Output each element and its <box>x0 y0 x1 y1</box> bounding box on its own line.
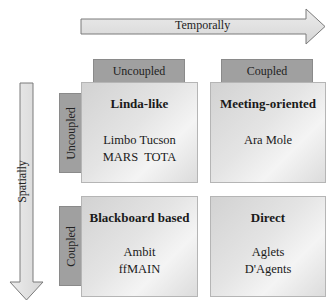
column-header-uncoupled: Uncoupled <box>93 59 185 84</box>
temporally-label: Temporally <box>175 18 230 33</box>
cell-item: Limbo Tucson <box>82 132 197 149</box>
row-header-uncoupled: Uncoupled <box>59 93 83 173</box>
row-header-label: Coupled <box>64 226 79 267</box>
cell-linda-like: Linda-like Limbo Tucson MARS TOTA <box>81 82 198 183</box>
spatially-arrow: Spatially <box>9 82 45 302</box>
spatially-label: Spatially <box>15 160 30 203</box>
column-header-label: Uncoupled <box>113 64 166 79</box>
cell-blackboard-based: Blackboard based Ambit ffMAIN <box>81 196 198 297</box>
row-header-label: Uncoupled <box>64 107 79 160</box>
cell-item: ffMAIN <box>82 261 197 278</box>
cell-title: Linda-like <box>82 96 197 112</box>
column-header-label: Coupled <box>247 64 288 79</box>
cell-item: D'Agents <box>211 261 325 278</box>
cell-meeting-oriented: Meeting-oriented Ara Mole <box>210 82 326 183</box>
cell-direct: Direct Aglets D'Agents <box>210 196 326 297</box>
cell-title: Meeting-oriented <box>211 96 325 112</box>
cell-title: Blackboard based <box>82 210 197 226</box>
cell-item: Aglets <box>211 244 325 261</box>
cell-item: MARS TOTA <box>82 149 197 166</box>
column-header-coupled: Coupled <box>221 59 313 84</box>
row-header-coupled: Coupled <box>59 206 83 286</box>
cell-title: Direct <box>211 210 325 226</box>
cell-item: Ara Mole <box>211 132 325 149</box>
temporally-arrow: Temporally <box>80 8 327 45</box>
cell-item: Ambit <box>82 244 197 261</box>
